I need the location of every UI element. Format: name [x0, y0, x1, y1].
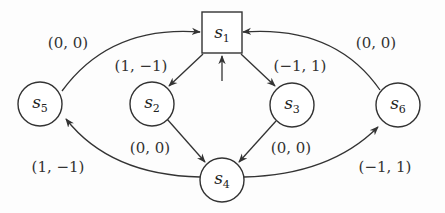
edge-s1-s3	[241, 54, 275, 86]
graph-svg: s1 s2 s3 s4 s5 s6 (0, 0) (1, −1) (−1, 1)…	[0, 0, 445, 213]
label-s2-s4: (0, 0)	[130, 139, 170, 157]
edge-s2-s4	[167, 119, 205, 162]
edge-s1-s2	[169, 54, 203, 86]
label-s1-s3: (−1, 1)	[274, 57, 327, 75]
state-graph-diagram: s1 s2 s3 s4 s5 s6 (0, 0) (1, −1) (−1, 1)…	[0, 0, 445, 213]
label-s4-s5: (1, −1)	[32, 158, 85, 176]
node-s1: s1	[202, 12, 242, 53]
label-s6-s1: (0, 0)	[356, 34, 396, 52]
node-s5: s5	[18, 82, 62, 126]
label-s1-s2: (1, −1)	[115, 57, 168, 75]
label-s5-s1: (0, 0)	[48, 34, 88, 52]
label-s3-s4: (0, 0)	[271, 139, 311, 157]
node-s6: s6	[376, 83, 420, 127]
node-s3: s3	[270, 83, 314, 127]
node-s2: s2	[130, 82, 174, 126]
node-s4: s4	[200, 158, 244, 202]
label-s4-s6: (−1, 1)	[359, 158, 412, 176]
